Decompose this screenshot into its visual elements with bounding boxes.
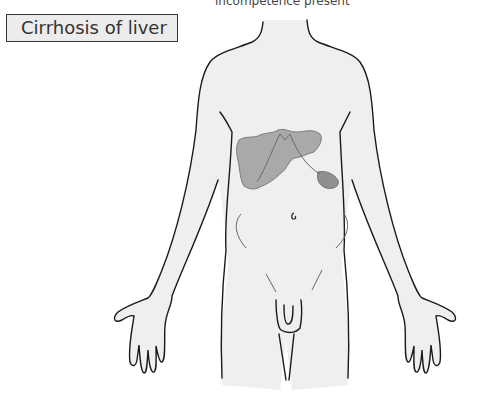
body-silhouette — [115, 20, 456, 390]
body-outline-figure — [0, 0, 481, 395]
